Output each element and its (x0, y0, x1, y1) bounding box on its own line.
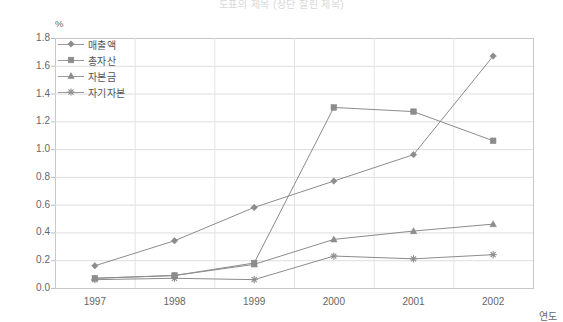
y-axis-tick-label: 1.6 (16, 61, 50, 71)
data-point-triangle (68, 73, 74, 79)
y-axis-tick-label: 0.2 (16, 255, 50, 265)
legend-item[interactable]: 총자산 (58, 52, 125, 68)
legend-marker-diamond-icon (58, 38, 84, 50)
y-axis-tick-label: 1.8 (16, 33, 50, 43)
legend-item-label: 총자산 (88, 53, 116, 68)
legend-item[interactable]: 자기자본 (58, 84, 125, 100)
y-axis-tick-label: 1.2 (16, 116, 50, 126)
legend-marker-triangle-icon (58, 70, 84, 82)
data-point-star (67, 88, 74, 95)
legend-item-label: 자기자본 (88, 85, 125, 100)
chart-title: 도표의 제목 (상단 잘린 제목) (0, 0, 563, 12)
y-axis-tick-label: 0.8 (16, 172, 50, 182)
y-axis-unit-label: % (55, 18, 63, 29)
legend-marker-star-icon (58, 86, 84, 98)
data-point-diamond (68, 41, 74, 47)
x-axis-tick-label: 2001 (387, 296, 441, 307)
x-axis-title: 연도 (539, 308, 557, 322)
line-chart: 도표의 제목 (상단 잘린 제목) % 1.81.61.41.21.00.80.… (0, 0, 563, 322)
data-point-star (251, 276, 258, 283)
legend-marker-square-icon (58, 54, 84, 66)
legend-item-label: 자본금 (88, 69, 116, 84)
data-point-square (331, 105, 337, 111)
y-axis-tick-labels: 1.81.61.41.21.00.80.60.40.20.0 (12, 0, 50, 322)
y-axis-tick-label: 0.0 (16, 283, 50, 293)
legend-item[interactable]: 매출액 (58, 36, 125, 52)
legend-item-label: 매출액 (88, 37, 116, 52)
x-axis-tick-label: 2000 (307, 296, 361, 307)
x-axis-tick-label: 1999 (227, 296, 281, 307)
data-point-star (490, 251, 497, 258)
y-axis-tick-label: 1.0 (16, 144, 50, 154)
data-point-star (330, 252, 337, 259)
legend-item[interactable]: 자본금 (58, 68, 125, 84)
x-axis-tick-label: 1998 (148, 296, 202, 307)
data-point-square (490, 138, 496, 144)
y-axis-tick-label: 1.4 (16, 89, 50, 99)
data-point-square (68, 57, 74, 63)
x-axis-tick-label: 1997 (68, 296, 122, 307)
y-axis-tick-label: 0.6 (16, 200, 50, 210)
data-point-square (411, 109, 417, 115)
x-axis-tick-label: 2002 (466, 296, 520, 307)
y-axis-tick-label: 0.4 (16, 227, 50, 237)
data-point-star (91, 276, 98, 283)
chart-legend: 매출액총자산자본금자기자본 (58, 36, 125, 100)
